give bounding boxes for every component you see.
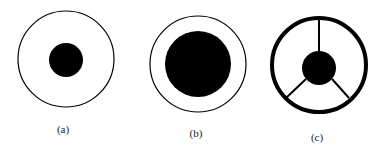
panel-a: (a) <box>18 11 114 136</box>
panel-b: (b) <box>150 16 246 140</box>
figure-canvas: (a) (b) (c) <box>0 0 386 150</box>
panel-label: (b) <box>190 127 203 140</box>
inner-disk <box>49 43 83 77</box>
inner-disk <box>165 31 231 97</box>
spoke-lower-right <box>332 79 349 98</box>
inner-disk <box>302 51 336 85</box>
spoke-lower-left <box>286 79 306 98</box>
panel-label: (c) <box>311 131 324 144</box>
panel-label: (a) <box>57 123 70 136</box>
panel-c: (c) <box>272 18 366 144</box>
